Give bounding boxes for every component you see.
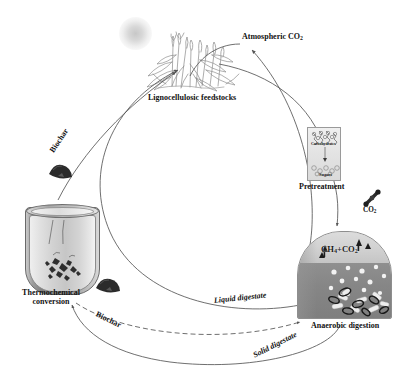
flask-carbohydrates-label: Carbohydrates (311, 142, 335, 146)
atmospheric-co2-text: Atmospheric CO (242, 32, 300, 41)
biochar-pile-icon-upper (49, 165, 72, 179)
biochar-lower-stream-label: Biochar (94, 310, 122, 330)
biogas-ch4-text: CH (321, 244, 334, 254)
arrow-biochar-to-feedstock (58, 72, 176, 200)
bioenergy-carbon-cycle-figure: Carbohydrates Sugars (0, 0, 397, 375)
co2-release-label: CO2 (363, 207, 376, 215)
thermochemical-conversion-label: Thermochemical conversion (8, 289, 94, 306)
pretreatment-label: Pretreatment (299, 183, 344, 192)
anaerobic-digestion-label: Anaerobic digestion (311, 322, 379, 331)
biogas-co2-text: +CO (337, 244, 355, 254)
reactor-contents-icon (25, 200, 100, 300)
sun-icon (119, 17, 152, 50)
co2-molecule-icon (363, 189, 380, 206)
liquid-digestate-stream-label: Liquid digestate (214, 292, 267, 306)
atmospheric-co2-label: Atmospheric CO2 (242, 33, 303, 42)
atmospheric-co2-subscript: 2 (300, 35, 303, 41)
co2-release-subscript: 2 (374, 208, 377, 214)
solid-digestate-stream-label: Solid digestate (252, 331, 298, 360)
flask-sugars-label: Sugars (319, 173, 332, 178)
biogas-co2-subscript: 2 (355, 247, 358, 254)
thermochemical-reactor-icon (25, 200, 100, 300)
lignocellulosic-plants-icon (147, 32, 239, 91)
arrow-liquid-digestate-to-feedstock (100, 70, 300, 309)
digester-biogas-label: CH4+CO2 (321, 245, 358, 255)
arrow-atmosphere-to-plants (190, 44, 240, 76)
co2-release-text: CO (363, 206, 374, 214)
lignocellulosic-feedstocks-label: Lignocellulosic feedstocks (148, 94, 236, 103)
biochar-upper-stream-label: Biochar (48, 127, 70, 154)
arrow-ad-to-atmosphere (252, 50, 312, 245)
